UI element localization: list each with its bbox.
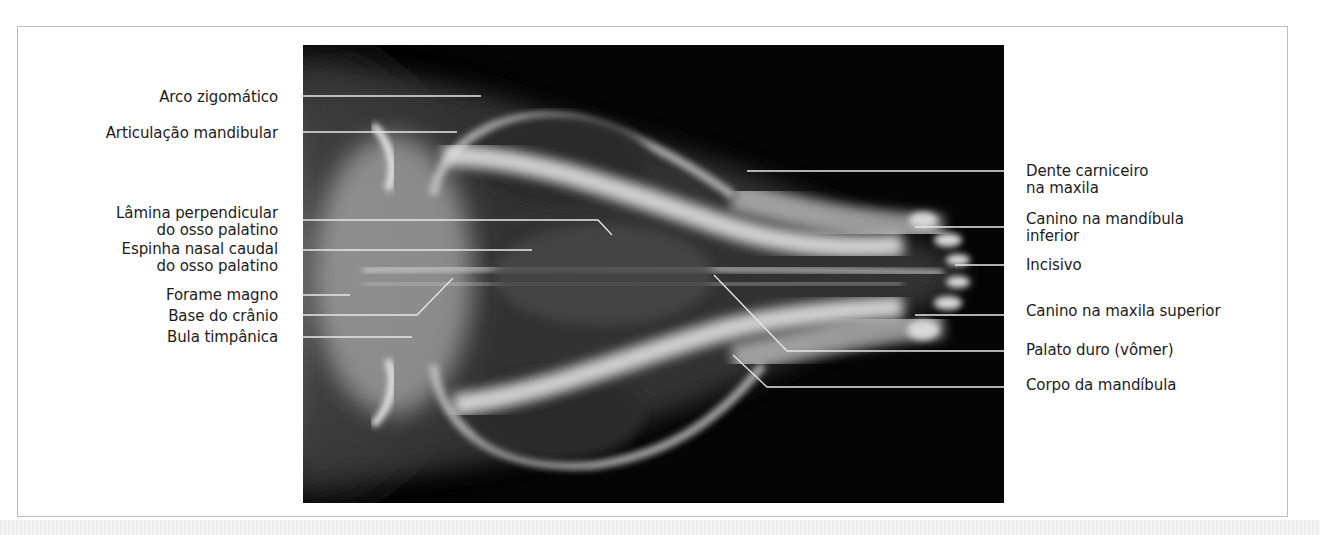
label-canino-maxila-superior: Canino na maxila superior [1026, 303, 1221, 320]
label-bula-timpanica: Bula timpânica [167, 329, 278, 346]
label-base-cranio: Base do crânio [168, 308, 278, 325]
label-forame-magno: Forame magno [166, 287, 278, 304]
label-canino-mandibula-inferior: Canino na mandíbula inferior [1026, 211, 1184, 245]
skull-radiograph [303, 45, 1004, 503]
label-lamina-perpendicular: Lâmina perpendicular do osso palatino [116, 205, 278, 239]
radiograph-illustration [303, 45, 1004, 503]
label-incisivo: Incisivo [1026, 257, 1082, 274]
label-palato-duro: Palato duro (vômer) [1026, 342, 1173, 359]
label-arco-zigomatico: Arco zigomático [159, 89, 278, 106]
caption-strip [0, 520, 1320, 535]
label-articulacao-mandibular: Articulação mandibular [106, 125, 278, 142]
label-corpo-mandibula: Corpo da mandíbula [1026, 377, 1176, 394]
label-espinha-nasal-caudal: Espinha nasal caudal do osso palatino [122, 241, 278, 275]
label-dente-carniceiro: Dente carniceiro na maxila [1026, 163, 1148, 197]
